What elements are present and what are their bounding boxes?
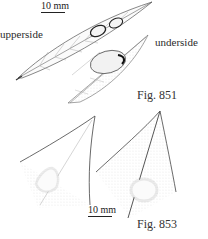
- fig853-left-gall: [36, 168, 58, 192]
- scale-bar-line-fig851: [41, 12, 65, 13]
- fig853-right-leaf: [96, 111, 176, 218]
- underside-gall: [88, 47, 128, 78]
- figure-caption-853: Fig. 853: [137, 218, 177, 230]
- label-underside: underside: [155, 37, 198, 48]
- fig853-left-leaf: [20, 116, 95, 208]
- scale-bar-label-fig851: 10 mm: [41, 1, 69, 11]
- figure-caption-851: Fig. 851: [137, 89, 177, 101]
- scale-bar-line-fig853: [88, 216, 112, 217]
- fig853-right-gall: [131, 179, 157, 201]
- upperside-leaf: [16, 2, 152, 80]
- label-upperside: upperside: [0, 29, 43, 40]
- scale-bar-label-fig853: 10 mm: [88, 205, 116, 215]
